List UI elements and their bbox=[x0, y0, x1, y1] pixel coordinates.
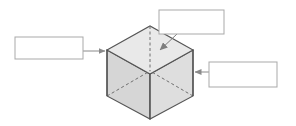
diagram-svg bbox=[0, 0, 296, 126]
callout-box-right[interactable] bbox=[209, 62, 277, 87]
callout-box-top-rect[interactable] bbox=[159, 10, 224, 34]
callout-box-top[interactable] bbox=[159, 10, 224, 34]
callout-box-left[interactable] bbox=[15, 37, 83, 59]
diagram-canvas bbox=[0, 0, 296, 126]
callout-box-left-rect[interactable] bbox=[15, 37, 83, 59]
cube-shape bbox=[107, 26, 193, 119]
callout-box-right-rect[interactable] bbox=[209, 62, 277, 87]
